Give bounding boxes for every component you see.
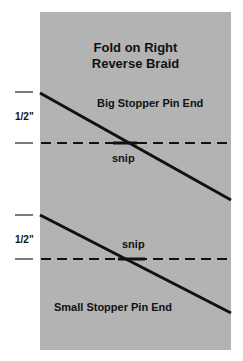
title-line-1: Fold on Right <box>40 40 231 56</box>
measure-label-bottom: 1/2" <box>15 234 34 245</box>
measure-label-top: 1/2" <box>15 111 34 122</box>
big-stopper-label: Big Stopper Pin End <box>97 97 203 109</box>
diagonal-braid-line-2 <box>40 215 231 313</box>
diagram-title: Fold on Right Reverse Braid <box>40 40 231 72</box>
snip-label-top: snip <box>112 152 135 164</box>
title-line-2: Reverse Braid <box>40 56 231 72</box>
snip-label-bottom: snip <box>122 238 145 250</box>
small-stopper-label: Small Stopper Pin End <box>54 301 172 313</box>
diagonal-braid-line-1 <box>40 93 231 200</box>
